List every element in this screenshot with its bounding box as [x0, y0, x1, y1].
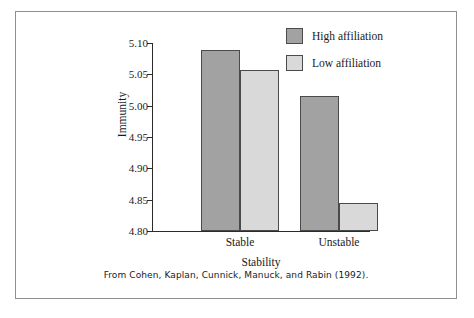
y-axis-tick-label: 4.85	[129, 194, 148, 205]
y-axis-tick-label: 5.00	[129, 100, 148, 111]
bar	[240, 70, 279, 231]
legend-label: Low affiliation	[312, 57, 381, 70]
legend-label: High affiliation	[312, 30, 383, 43]
bar	[300, 96, 339, 231]
figure-root: Immunity 4.804.854.904.955.005.055.10 St…	[0, 0, 474, 318]
y-axis-tick-label: 5.10	[129, 38, 148, 49]
x-axis-line	[152, 231, 370, 232]
y-axis-line	[152, 43, 153, 231]
bar	[339, 203, 378, 231]
y-axis-tick-label: 4.80	[129, 226, 148, 237]
legend: High affiliationLow affiliation	[286, 28, 383, 82]
bar	[201, 50, 240, 231]
legend-item: Low affiliation	[286, 55, 383, 71]
y-axis-tick-label: 4.90	[129, 163, 148, 174]
x-axis-title: Stability	[152, 256, 370, 269]
legend-swatch	[286, 28, 303, 44]
legend-swatch	[286, 55, 303, 71]
legend-item: High affiliation	[286, 28, 383, 44]
source-caption: From Cohen, Kaplan, Cunnick, Manuck, and…	[15, 270, 457, 281]
x-axis-category-label: Unstable	[289, 236, 389, 249]
y-axis-title: Immunity	[116, 92, 129, 137]
x-axis-category-label: Stable	[190, 236, 290, 249]
y-axis-tick-label: 5.05	[129, 69, 148, 80]
y-axis-tick-label: 4.95	[129, 132, 148, 143]
